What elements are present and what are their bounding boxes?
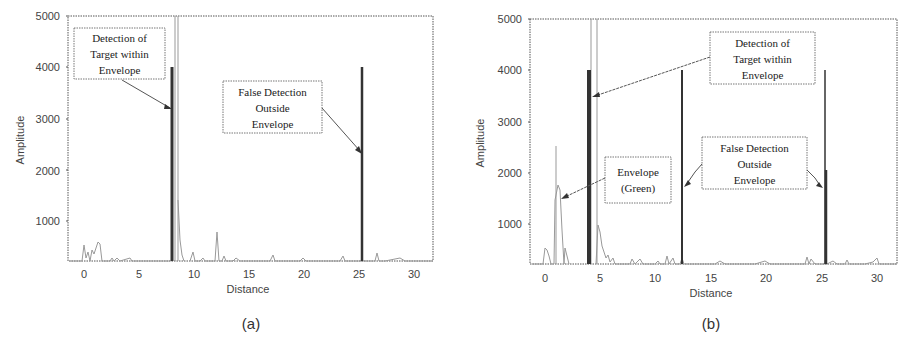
xtick-label: 25	[353, 268, 365, 280]
y-axis-b: 5000 4000 3000 2000 1000	[498, 13, 530, 230]
chart-b-svg: 5000 4000 3000 2000 1000 Amplitude 0 5 1…	[455, 0, 910, 349]
ytick-label: 5000	[36, 10, 60, 22]
xtick-label: 30	[408, 268, 420, 280]
callout-line: Outside	[255, 102, 289, 114]
xtick-label: 25	[816, 272, 828, 284]
callout-line: Envelope	[99, 64, 141, 76]
x-axis-a: 0 5 10 15 20 25 30	[81, 268, 420, 280]
xtick-label: 10	[649, 272, 661, 284]
callout-line: Envelope	[617, 166, 659, 178]
callout-line: Target within	[90, 48, 149, 60]
xtick-label: 10	[188, 268, 200, 280]
ytick-label: 2000	[36, 165, 60, 177]
xtick-label: 15	[705, 272, 717, 284]
ytick-label: 3000	[498, 116, 522, 128]
callout-line: Detection of	[92, 32, 147, 44]
ytick-label: 2000	[498, 167, 522, 179]
xtick-label: 20	[760, 272, 772, 284]
callout-line: False Detection	[238, 86, 307, 98]
xtick-label: 5	[136, 268, 142, 280]
callout-line: Detection of	[735, 37, 790, 49]
xtick-label: 15	[243, 268, 255, 280]
xtick-label: 30	[871, 272, 883, 284]
ytick-label: 1000	[498, 218, 522, 230]
ytick-label: 4000	[36, 61, 60, 73]
xtick-label: 5	[597, 272, 603, 284]
x-axis-label-a: Distance	[227, 283, 270, 295]
callout-line: (Green)	[621, 182, 656, 195]
ytick-label: 3000	[36, 113, 60, 125]
caption-a: (a)	[242, 315, 260, 332]
ytick-label: 4000	[498, 64, 522, 76]
callout-false-detection-b: False Detection Outside Envelope	[684, 137, 823, 189]
ytick-label: 1000	[36, 215, 60, 227]
callout-line: False Detection	[720, 142, 789, 154]
x-axis-b: 0 5 10 15 20 25 30	[542, 272, 883, 284]
callout-line: Envelope	[734, 174, 776, 186]
xtick-label: 0	[81, 268, 87, 280]
chart-a-svg: 5000 4000 3000 2000 1000 Amplitude 0 5 1…	[0, 0, 455, 349]
y-axis-label-b: Amplitude	[474, 119, 486, 168]
callout-line: Outside	[737, 158, 771, 170]
xtick-label: 0	[542, 272, 548, 284]
callout-line: Target within	[733, 53, 792, 65]
caption-b: (b)	[702, 315, 720, 332]
chart-panel-a: 5000 4000 3000 2000 1000 Amplitude 0 5 1…	[0, 0, 455, 349]
chart-panel-b: 5000 4000 3000 2000 1000 Amplitude 0 5 1…	[455, 0, 910, 349]
y-axis-label-a: Amplitude	[14, 116, 26, 165]
y-axis-a: 5000 4000 3000 2000 1000	[36, 10, 68, 227]
ytick-label: 5000	[498, 13, 522, 25]
xtick-label: 20	[298, 268, 310, 280]
callout-line: Envelope	[742, 69, 784, 81]
x-axis-label-b: Distance	[690, 287, 733, 299]
callout-line: Envelope	[252, 118, 294, 130]
